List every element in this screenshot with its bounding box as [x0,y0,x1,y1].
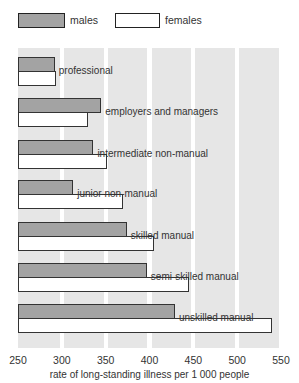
legend-females-swatch [115,13,160,28]
legend-females-label: females [165,13,202,28]
bar-males [18,98,101,113]
x-axis-label: rate of long-standing illness per 1 000 … [0,369,299,380]
category-label: professional [59,65,113,77]
legend-males-swatch [18,13,65,28]
bar-females [18,154,107,169]
bar-males [18,57,55,72]
grid-band [239,48,279,348]
grid-band [152,48,192,348]
x-tick-label: 300 [47,354,77,366]
x-tick-label: 400 [135,354,165,366]
x-tick-label: 500 [222,354,252,366]
legend-males-label: males [70,13,98,28]
bar-males [18,263,147,278]
bar-females [18,71,56,86]
category-label: unskilled manual [179,312,254,324]
category-label: junior non-manual [77,188,157,200]
bar-males [18,180,73,195]
x-tick-label: 450 [178,354,208,366]
x-tick-label: 550 [266,354,296,366]
x-tick-label: 250 [3,354,33,366]
category-label: intermediate non-manual [97,148,208,160]
bar-males [18,304,175,319]
category-label: employers and managers [105,106,218,118]
category-label: semi-skilled manual [151,271,239,283]
x-tick-label: 350 [91,354,121,366]
bar-males [18,140,93,155]
grid-band [195,48,235,348]
bar-females [18,112,88,127]
category-label: skilled manual [131,230,194,242]
bar-males [18,222,127,237]
